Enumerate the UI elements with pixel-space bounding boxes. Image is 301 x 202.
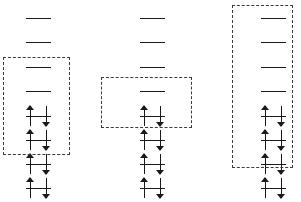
energy-level-paired[interactable] [140,177,165,199]
spin-down-arrow-icon [156,153,165,175]
spin-up-arrow-icon [261,177,270,199]
spin-up-arrow-icon [140,177,149,199]
orbital-line [140,67,165,68]
energy-level-paired[interactable] [261,177,286,199]
spin-down-arrow-icon [42,153,51,175]
energy-level-empty[interactable] [26,31,51,53]
spin-down-arrow-icon [42,177,51,199]
selection-box[interactable] [101,77,192,128]
orbital-line [26,42,51,43]
energy-level-paired[interactable] [26,177,51,199]
spin-up-arrow-icon [140,129,149,151]
spin-down-arrow-icon [156,177,165,199]
spin-down-arrow-icon [277,177,286,199]
energy-level-empty[interactable] [26,7,51,29]
orbital-line [26,18,51,19]
energy-level-empty[interactable] [140,56,165,78]
energy-level-empty[interactable] [140,31,165,53]
energy-level-paired[interactable] [140,129,165,151]
orbital-diagram-figure [0,0,301,202]
spin-up-arrow-icon [26,153,35,175]
orbital-line [140,18,165,19]
selection-box[interactable] [3,57,70,155]
spin-down-arrow-icon [156,129,165,151]
energy-level-paired[interactable] [140,153,165,175]
spin-up-arrow-icon [26,177,35,199]
energy-level-empty[interactable] [140,7,165,29]
selection-box[interactable] [232,5,293,168]
orbital-line [140,42,165,43]
spin-up-arrow-icon [140,153,149,175]
energy-level-paired[interactable] [26,153,51,175]
